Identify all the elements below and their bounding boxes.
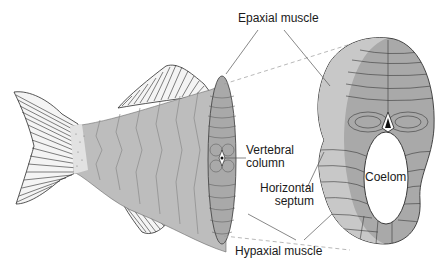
trunk-cross-section xyxy=(208,76,236,244)
enlarged-cross-section xyxy=(318,38,436,244)
label-vertebral-line2: column xyxy=(246,157,294,170)
label-epaxial-muscle: Epaxial muscle xyxy=(238,12,319,25)
fish-musculature-diagram: Epaxial muscle Vertebral column Horizont… xyxy=(0,0,446,265)
caudal-fin xyxy=(14,92,82,204)
label-horizontal-septum: Horizontal septum xyxy=(248,182,314,208)
label-coelom: Coelom xyxy=(365,171,406,184)
label-vertebral-column: Vertebral column xyxy=(246,144,294,170)
label-hypaxial-muscle: Hypaxial muscle xyxy=(235,245,322,258)
label-horizontal-line2: septum xyxy=(248,195,314,208)
diagram-artwork xyxy=(0,0,446,265)
leader-lines xyxy=(224,30,332,240)
